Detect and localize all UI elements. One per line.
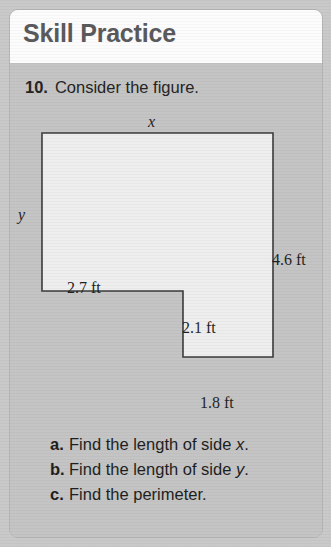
- question-letter-b: b.: [50, 458, 65, 480]
- question-text-a: Find the length of side x.: [69, 435, 249, 453]
- card-header-band: Skill Practice: [10, 10, 322, 64]
- l-shape-outline: [42, 133, 273, 357]
- figure-label-bottom-side: 1.8 ft: [200, 394, 234, 412]
- figure-label-middle-horizontal: 2.7 ft: [67, 279, 101, 297]
- question-variable-b: y: [236, 460, 244, 478]
- scanned-page-background: Skill Practice 10.Consider the figure. x…: [0, 0, 331, 547]
- list-item: b. Find the length of side y.: [10, 458, 322, 480]
- card-body: 10.Consider the figure. x y 4.6 ft 2.7 f…: [10, 63, 322, 537]
- problem-statement: 10.Consider the figure.: [25, 78, 199, 97]
- list-item: c. Find the perimeter.: [10, 483, 322, 505]
- figure-label-inner-vertical: 2.1 ft: [182, 319, 216, 337]
- geometry-figure: x y 4.6 ft 2.7 ft 2.1 ft 1.8 ft: [10, 111, 322, 411]
- question-letter-c: c.: [50, 483, 64, 505]
- problem-number: 10.: [25, 78, 48, 96]
- question-text-b-after: .: [244, 460, 249, 478]
- question-text-a-after: .: [244, 435, 249, 453]
- figure-label-left-side: y: [18, 206, 25, 224]
- question-text-a-before: Find the length of side: [69, 435, 236, 453]
- skill-practice-card: Skill Practice 10.Consider the figure. x…: [9, 9, 323, 538]
- question-variable-a: x: [236, 435, 244, 453]
- question-letter-a: a.: [50, 433, 64, 455]
- figure-label-top-side: x: [148, 113, 155, 131]
- list-item: a. Find the length of side x.: [10, 433, 322, 455]
- question-text-b: Find the length of side y.: [69, 460, 249, 478]
- figure-label-right-side: 4.6 ft: [272, 251, 306, 269]
- sub-questions-list: a. Find the length of side x. b. Find th…: [10, 433, 322, 508]
- question-text-b-before: Find the length of side: [69, 460, 236, 478]
- page-title: Skill Practice: [23, 19, 176, 48]
- question-text-c-before: Find the perimeter.: [69, 485, 207, 503]
- question-text-c: Find the perimeter.: [69, 485, 207, 503]
- problem-text: Consider the figure.: [55, 78, 199, 96]
